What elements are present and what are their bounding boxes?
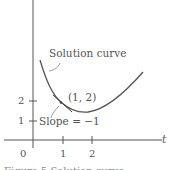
point-label: (1, 2) [68,91,96,103]
y-tick-label-2: 2 [18,95,24,106]
t-axis-label: t [162,133,167,145]
x-tick-label-2: 2 [89,148,95,159]
origin-label: 0 [20,148,26,159]
figure-caption: Figure 5 Solution curve... [4,165,134,170]
slope-label: Slope = −1 [39,115,100,127]
solution-curve-diagram: Solution curve (1, 2) Slope = −1 t 2 1 0… [0,0,174,170]
solution-curve [40,60,143,112]
curve-label-leader [49,63,60,71]
y-tick-label-1: 1 [18,115,24,126]
point-1-2 [60,101,63,104]
curve-label: Solution curve [49,47,126,59]
x-tick-label-1: 1 [60,148,66,159]
